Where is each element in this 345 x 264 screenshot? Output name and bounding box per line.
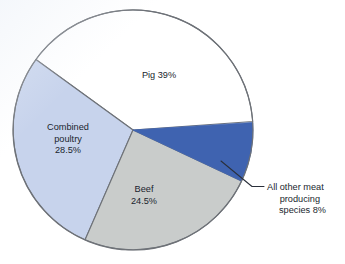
pie-label-other-line2: producing xyxy=(280,194,320,204)
pie-label-poultry-line3: 28.5% xyxy=(55,145,81,155)
pie-chart-figure: Pig 39% Combined poultry 28.5% Beef 24.5… xyxy=(0,0,345,264)
pie-label-beef: Beef 24.5% xyxy=(131,184,157,206)
pie-label-pig: Pig 39% xyxy=(142,70,176,80)
pie-label-beef-line1: Beef xyxy=(135,184,154,194)
pie-label-poultry-line2: poultry xyxy=(54,134,82,144)
pie-label-pig-text: Pig 39% xyxy=(142,70,176,80)
pie-label-poultry-line1: Combined xyxy=(47,122,89,132)
pie-label-other-line1: All other meat xyxy=(267,182,324,192)
pie-label-beef-line2: 24.5% xyxy=(131,196,157,206)
pie-label-other-line3: species 8% xyxy=(279,205,326,215)
pie-chart-svg: Pig 39% Combined poultry 28.5% Beef 24.5… xyxy=(0,0,345,264)
